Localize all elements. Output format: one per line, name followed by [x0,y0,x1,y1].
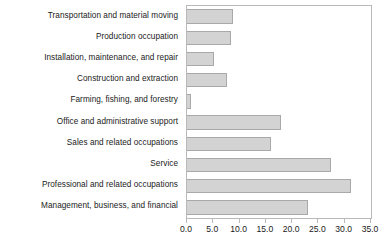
category-label: Management, business, and financial [0,196,183,217]
tick-label: 20.0 [283,224,300,234]
category-axis-labels: Transportation and material moving Produ… [0,5,183,217]
tick-label: 25.0 [309,224,326,234]
bar [187,94,191,108]
bar-row [187,27,371,48]
category-label: Farming, fishing, and forestry [0,90,183,111]
bar-row [187,176,371,197]
bar [187,200,308,214]
bar [187,73,227,87]
bars-layer [187,6,371,218]
category-label: Production occupation [0,26,183,47]
tick-label: 5.0 [206,224,218,234]
plot-area [186,5,372,219]
tick-mark [212,218,213,223]
bar-row [187,154,371,175]
tick-label: 0.0 [180,224,192,234]
tick-label: 15.0 [256,224,273,234]
tick-label: 30.0 [335,224,352,234]
tick-mark [317,218,318,223]
bar [187,158,331,172]
category-label: Installation, maintenance, and repair [0,47,183,68]
tick-mark [265,218,266,223]
bar [187,115,281,129]
bar-row [187,112,371,133]
bar [187,9,233,23]
tick-mark [239,218,240,223]
bar-chart: Transportation and material moving Produ… [0,0,386,243]
bar-row [187,6,371,27]
tick-label: 10.0 [230,224,247,234]
bar [187,31,231,45]
tick-mark [186,218,187,223]
category-label: Office and administrative support [0,111,183,132]
bar-row [187,133,371,154]
bar [187,52,214,66]
bar [187,179,351,193]
tick-mark [370,218,371,223]
bar [187,137,271,151]
category-label: Construction and extraction [0,69,183,90]
category-label: Transportation and material moving [0,5,183,26]
tick-label: 35.0 [362,224,379,234]
tick-mark [291,218,292,223]
bar-row [187,197,371,218]
x-axis-tick-labels: 0.05.010.015.020.025.030.035.0 [186,224,370,240]
bar-row [187,70,371,91]
category-label: Service [0,153,183,174]
tick-mark [344,218,345,223]
bar-row [187,91,371,112]
category-label: Sales and related occupations [0,132,183,153]
category-label: Professional and related occupations [0,175,183,196]
bar-row [187,48,371,69]
